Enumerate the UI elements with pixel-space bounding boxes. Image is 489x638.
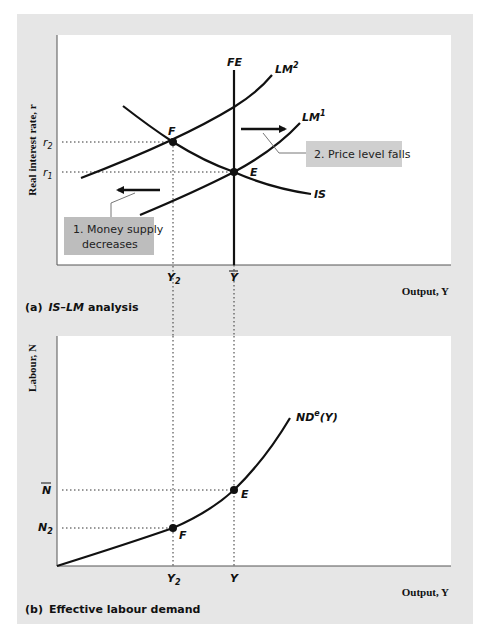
plot-area-b	[57, 336, 451, 566]
label-e-b: E	[241, 488, 249, 501]
tick-y2-b: Y2	[167, 572, 181, 587]
tick-r1: r1	[43, 166, 53, 181]
label-is: IS	[314, 188, 326, 201]
label-fe: FE	[227, 56, 243, 69]
annotation-money-line1: 1. Money supply	[73, 223, 164, 236]
x-axis-label-a: Output, Y	[402, 285, 449, 297]
tick-n2: N2	[38, 521, 53, 536]
figure-svg: 1. Money supply decreases 2. Price level…	[0, 0, 489, 638]
label-f-a: F	[168, 125, 176, 138]
tick-ybar-b: Y	[230, 572, 239, 585]
point-f-a	[169, 138, 177, 146]
tick-r2: r2	[43, 136, 53, 151]
point-e-a	[230, 168, 238, 176]
caption-b: (b)Effective labour demand	[25, 603, 200, 616]
label-e-a: E	[250, 166, 258, 179]
y-axis-label-b: Labour, N	[26, 344, 38, 392]
tick-nbar: N	[42, 484, 51, 497]
tick-ybar-a: Y	[230, 271, 239, 284]
caption-a: (a)IS–LManalysis	[25, 301, 139, 314]
label-f-b: F	[179, 529, 187, 542]
point-e-b	[230, 486, 238, 494]
tick-y2-a: Y2	[167, 271, 181, 286]
annotation-price: 2. Price level falls	[314, 148, 411, 161]
y-axis-label-a: Real interest rate, r	[26, 104, 38, 196]
point-f-b	[169, 524, 177, 532]
annotation-money-line2: decreases	[82, 238, 138, 251]
x-axis-label-b: Output, Y	[402, 586, 449, 598]
